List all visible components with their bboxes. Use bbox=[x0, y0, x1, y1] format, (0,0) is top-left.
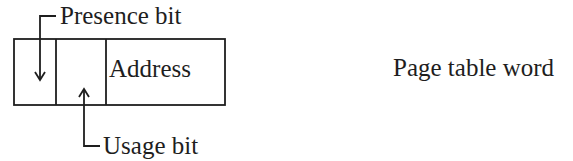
presence-arrow-icon bbox=[35, 16, 56, 80]
usage-arrow-icon bbox=[79, 89, 100, 146]
page-table-word-diagram: Presence bit Address Usage bit Page tabl… bbox=[0, 0, 573, 161]
diagram-title: Page table word bbox=[393, 55, 554, 80]
address-field-label: Address bbox=[109, 56, 191, 81]
usage-bit-label: Usage bit bbox=[103, 133, 198, 158]
presence-bit-label: Presence bit bbox=[60, 3, 181, 28]
